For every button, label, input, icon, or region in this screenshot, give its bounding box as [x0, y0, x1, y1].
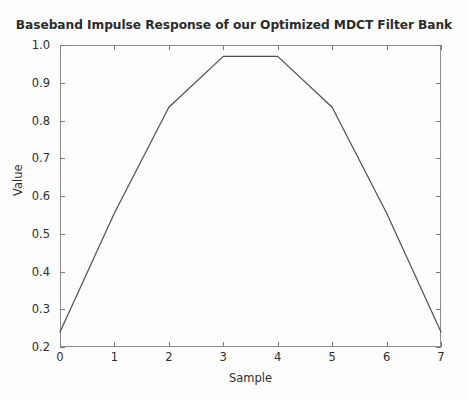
x-tick-mark-top [278, 45, 279, 50]
y-tick-mark [60, 347, 65, 348]
x-tick-mark [441, 342, 442, 347]
x-tick-mark-top [169, 45, 170, 50]
x-tick-label: 4 [263, 350, 293, 364]
impulse-response-line [60, 56, 441, 332]
y-tick-mark-right [436, 121, 441, 122]
plot-canvas [60, 45, 441, 347]
x-tick-mark-top [223, 45, 224, 50]
x-tick-label: 6 [372, 350, 402, 364]
y-tick-mark-right [436, 158, 441, 159]
y-tick-label: 0.8 [16, 114, 50, 128]
y-tick-mark [60, 234, 65, 235]
x-axis-label: Sample [60, 371, 441, 385]
x-tick-label: 1 [99, 350, 129, 364]
x-tick-mark-top [332, 45, 333, 50]
x-tick-mark [169, 342, 170, 347]
y-tick-mark [60, 196, 65, 197]
y-tick-label: 1.0 [16, 38, 50, 52]
x-tick-label: 5 [317, 350, 347, 364]
y-tick-mark [60, 121, 65, 122]
y-tick-mark [60, 158, 65, 159]
y-tick-label: 0.5 [16, 227, 50, 241]
x-tick-label: 7 [426, 350, 456, 364]
x-tick-label: 3 [208, 350, 238, 364]
x-tick-label: 0 [45, 350, 75, 364]
x-tick-mark [332, 342, 333, 347]
y-tick-mark [60, 272, 65, 273]
y-tick-label: 0.3 [16, 302, 50, 316]
x-tick-label: 2 [154, 350, 184, 364]
y-axis-label: Value [11, 164, 25, 196]
y-tick-mark-right [436, 347, 441, 348]
y-tick-mark [60, 309, 65, 310]
chart-figure: Baseband Impulse Response of our Optimiz… [0, 0, 468, 400]
x-tick-mark [278, 342, 279, 347]
x-tick-mark [387, 342, 388, 347]
x-tick-mark [60, 342, 61, 347]
y-tick-mark-right [436, 309, 441, 310]
x-tick-mark-top [60, 45, 61, 50]
y-tick-label: 0.9 [16, 76, 50, 90]
y-tick-mark-right [436, 83, 441, 84]
x-tick-mark-top [441, 45, 442, 50]
y-tick-mark [60, 83, 65, 84]
y-tick-mark-right [436, 234, 441, 235]
x-tick-mark [223, 342, 224, 347]
x-tick-mark-top [114, 45, 115, 50]
y-tick-mark-right [436, 196, 441, 197]
y-tick-mark-right [436, 272, 441, 273]
chart-title: Baseband Impulse Response of our Optimiz… [0, 18, 468, 32]
x-tick-mark-top [387, 45, 388, 50]
x-tick-mark [114, 342, 115, 347]
y-tick-label: 0.7 [16, 151, 50, 165]
y-tick-label: 0.4 [16, 265, 50, 279]
